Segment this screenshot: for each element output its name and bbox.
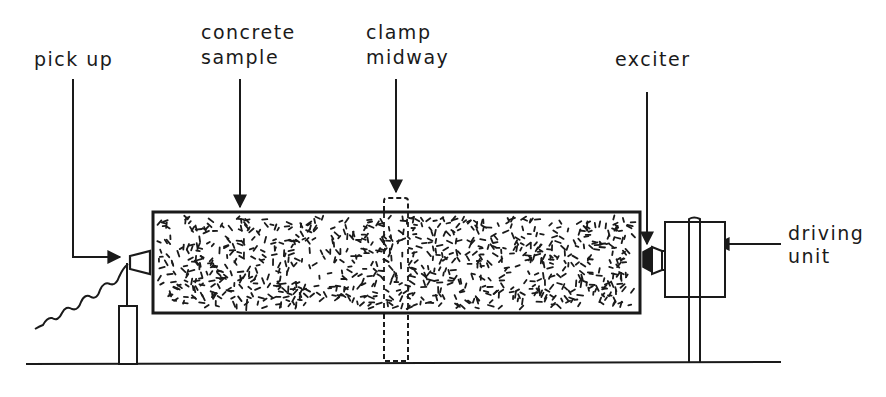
label-clamp-line1: clamp: [366, 21, 431, 43]
pick-up-arrow: [73, 79, 120, 257]
label-concrete-line2: sample: [201, 46, 279, 68]
pick-up-cable: [35, 264, 128, 329]
label-driving-line1: driving: [788, 222, 864, 244]
pick-up-support: [119, 306, 137, 364]
label-pick-up: pick up: [34, 48, 113, 70]
label-exciter: exciter: [615, 48, 690, 70]
exciter: [643, 247, 665, 274]
pick-up-transducer: [35, 251, 150, 364]
label-clamp-line2: midway: [366, 46, 449, 68]
ground-line: [26, 362, 781, 364]
concrete-sample: [153, 212, 640, 313]
label-driving-line2: unit: [788, 245, 831, 267]
driving-unit: [665, 218, 725, 363]
test-setup-diagram: pick up concrete sample clamp midway exc…: [0, 0, 886, 397]
label-concrete-line1: concrete: [201, 21, 296, 43]
